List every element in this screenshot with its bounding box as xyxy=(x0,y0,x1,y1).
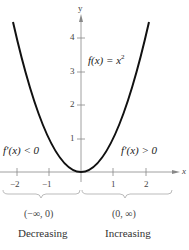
decreasing-label: Decreasing xyxy=(18,228,67,239)
y-tick-label: 4 xyxy=(70,33,75,42)
left-interval-label: (−∞, 0) xyxy=(24,209,53,219)
x-axis-label: x xyxy=(182,167,186,176)
right-derivative-label: f′(x) > 0 xyxy=(121,145,157,156)
x-axis-arrow-icon xyxy=(172,170,180,174)
y-tick-label: 3 xyxy=(70,67,75,76)
y-tick-label: 2 xyxy=(70,100,75,109)
x-tick-label: −2 xyxy=(10,180,20,189)
right-interval-label: (0, ∞) xyxy=(112,209,136,219)
x-tick-label: −1 xyxy=(42,180,52,189)
y-axis-arrow-icon xyxy=(79,14,83,22)
left-brace xyxy=(3,190,80,198)
right-brace xyxy=(82,190,172,198)
y-tick-label: 1 xyxy=(70,134,75,143)
y-axis-label: y xyxy=(78,4,83,13)
x-tick-label: 2 xyxy=(144,180,149,189)
left-derivative-label: f′(x) < 0 xyxy=(3,145,39,156)
x-tick-label: 1 xyxy=(111,180,116,189)
increasing-label: Increasing xyxy=(105,228,151,239)
function-label: f(x) = x2 xyxy=(88,54,125,66)
